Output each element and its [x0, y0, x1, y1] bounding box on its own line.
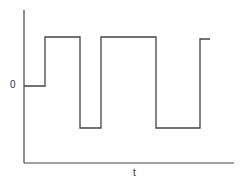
square-wave-signal	[24, 37, 210, 128]
square-wave-diagram	[0, 0, 248, 180]
x-axis-label: t	[133, 168, 136, 178]
y-origin-label: 0	[10, 80, 16, 90]
